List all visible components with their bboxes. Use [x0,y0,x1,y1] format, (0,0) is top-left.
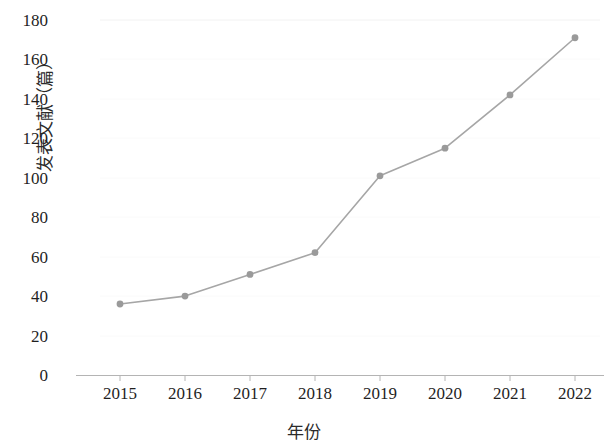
data-point-2022 [572,34,579,41]
data-point-2018 [312,249,319,256]
plot-area [0,0,608,441]
data-point-2019 [377,172,384,179]
data-series-line [120,38,575,304]
data-point-2020 [442,145,449,152]
data-point-markers [117,34,579,307]
gridlines [100,20,600,336]
data-point-2021 [507,92,514,99]
data-point-2017 [247,271,254,278]
data-point-2016 [182,293,189,300]
data-point-2015 [117,301,124,308]
line-chart: 发表文献（篇） 180 160 140 120 100 80 60 40 20 … [0,0,608,441]
x-axis-line [76,376,604,382]
